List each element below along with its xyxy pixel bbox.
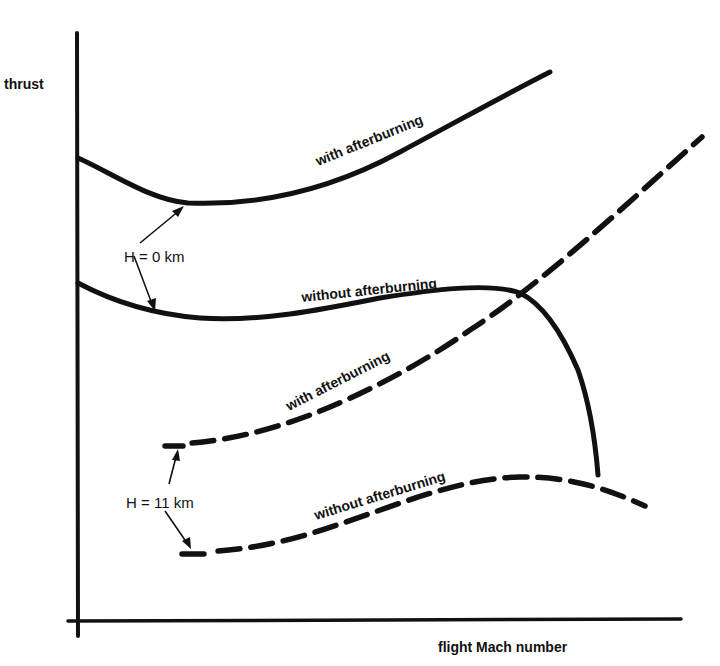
y-axis-label: thrust [4,76,44,92]
label-h0-with-afterburning: with afterburning [312,111,425,169]
x-axis-label: flight Mach number [438,639,568,655]
h0-annotation: H = 0 km [124,248,184,265]
thrust-vs-mach-diagram: thrust flight Mach number H = 0 km H = 1… [0,0,720,666]
h11-annotation: H = 11 km [126,494,194,511]
x-axis [68,619,681,621]
y-axis [77,33,78,636]
curve-h0-with-afterburning [78,72,550,203]
